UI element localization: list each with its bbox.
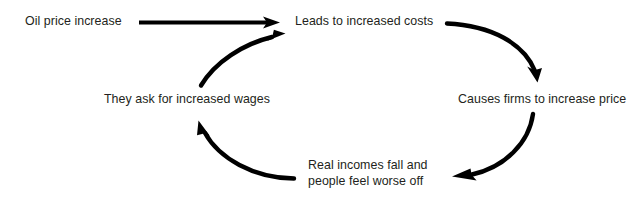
- arrow-real-incomes-to-wages: [197, 121, 294, 179]
- node-label-line: Leads to increased costs: [295, 14, 433, 30]
- arrow-shaft: [201, 37, 272, 86]
- arrow-firms-to-real-incomes: [452, 114, 533, 180]
- arrow-shaft: [472, 114, 533, 175]
- wage-price-spiral-diagram: Oil price increase Leads to increased co…: [0, 0, 638, 202]
- node-label-line: They ask for increased wages: [104, 92, 270, 108]
- arrow-head: [197, 121, 210, 136]
- node-label-line: Real incomes fall and: [308, 158, 428, 174]
- arrow-wages-to-costs: [201, 30, 286, 86]
- node-label-line: Causes firms to increase price: [458, 92, 626, 108]
- arrow-shaft: [205, 133, 294, 179]
- node-label-line: Oil price increase: [25, 14, 122, 30]
- arrow-costs-to-firms: [447, 24, 542, 83]
- node-real-incomes-fall: Real incomes fall and people feel worse …: [308, 158, 428, 189]
- arrow-oil-to-costs: [139, 16, 280, 28]
- arrow-shaft: [447, 24, 535, 71]
- node-oil-price-increase: Oil price increase: [25, 14, 122, 30]
- node-label-line: people feel worse off: [308, 174, 428, 190]
- node-leads-to-increased-costs: Leads to increased costs: [295, 14, 433, 30]
- node-they-ask-for-increased-wages: They ask for increased wages: [104, 92, 270, 108]
- node-causes-firms-to-increase-price: Causes firms to increase price: [458, 92, 626, 108]
